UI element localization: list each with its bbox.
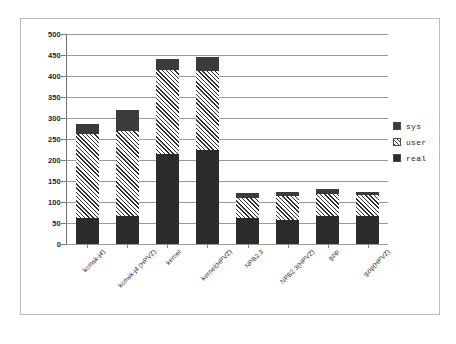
bar-slot [107,34,147,244]
legend-item-real[interactable]: real [393,151,455,165]
y-tick-mark [61,55,66,56]
x-axis-labels: kcmsk-j4)kcmsk-j4 (HPVZ)kernelkernel(HPV… [67,244,389,314]
x-label-slot: kcmsk-j4) [67,244,107,314]
plot-area: 500450400350300250200150100500 [66,34,388,244]
bar-segment-real [196,150,219,244]
bar-segment-real [116,216,139,244]
bar-segment-real [276,220,299,244]
y-tick-label: 500 [48,30,61,39]
y-tick-mark [61,223,66,224]
stacked-bar[interactable] [356,192,379,244]
bar-segment-sys [156,59,179,70]
y-tick-mark [61,181,66,182]
y-tick-label: 300 [48,114,61,123]
bar-slot [147,34,187,244]
y-tick-label: 200 [48,156,61,165]
legend-item-sys[interactable]: sys [393,119,455,133]
legend-label: sys [406,122,421,131]
bars-group [67,34,388,244]
x-axis-label: kernel [164,248,182,266]
bar-segment-real [156,154,179,244]
y-tick-mark [61,34,66,35]
y-tick-mark [61,139,66,140]
bar-slot [348,34,388,244]
bar-slot [187,34,227,244]
chart-figure: 500450400350300250200150100500 kcmsk-j4)… [20,18,440,315]
y-tick-label: 450 [48,51,61,60]
stacked-bar[interactable] [76,124,99,244]
y-tick-label: 150 [48,177,61,186]
user-swatch-icon [393,138,401,146]
y-tick-mark [61,97,66,98]
bar-segment-user [316,194,339,217]
bar-segment-user [356,195,379,216]
bar-slot [308,34,348,244]
sys-swatch-icon [393,122,401,130]
real-swatch-icon [393,154,401,162]
x-label-slot: NPB2.3 [228,244,268,314]
y-tick-label: 250 [48,135,61,144]
chart-legend: sysuserreal [393,119,455,167]
x-axis-label: kcmsk-j4) [81,248,106,273]
bar-segment-sys [76,124,99,134]
stacked-bar[interactable] [276,192,299,244]
bar-slot [228,34,268,244]
x-axis-label: NPB2.3 [243,248,264,269]
bar-segment-real [76,218,99,244]
stacked-bar[interactable] [316,189,339,244]
stacked-bar[interactable] [236,193,259,244]
bar-segment-user [76,134,99,218]
y-tick-mark [61,76,66,77]
y-tick-mark [61,244,66,245]
bar-segment-sys [196,57,219,71]
legend-label: user [406,138,426,147]
y-tick-label: 50 [52,219,61,228]
bar-segment-user [156,70,179,154]
stacked-bar[interactable] [196,57,219,244]
x-label-slot: kernel(HPVZ) [188,244,228,314]
legend-label: real [406,154,426,163]
x-label-slot: NPB2.3(HPVZ) [268,244,308,314]
bar-slot [268,34,308,244]
bar-slot [67,34,107,244]
bar-segment-real [356,216,379,244]
bar-segment-user [196,71,219,150]
y-tick-mark [61,202,66,203]
y-tick-label: 100 [48,198,61,207]
x-label-slot: kcmsk-j4 (HPVZ) [107,244,147,314]
y-tick-label: 0 [57,240,61,249]
x-label-slot: kernel [148,244,188,314]
bar-segment-user [116,131,139,216]
bar-segment-user [236,198,259,219]
bar-segment-sys [116,110,139,131]
y-tick-mark [61,160,66,161]
x-axis-label: gzip(HPVZ) [362,248,391,277]
x-axis-label: gzip [326,248,340,262]
x-label-slot: gzip [309,244,349,314]
bar-segment-real [236,218,259,244]
y-tick-label: 400 [48,72,61,81]
bar-segment-user [276,196,299,220]
stacked-bar[interactable] [156,59,179,244]
x-label-slot: gzip(HPVZ) [349,244,389,314]
y-tick-mark [61,118,66,119]
stacked-bar[interactable] [116,110,139,244]
legend-item-user[interactable]: user [393,135,455,149]
y-tick-label: 350 [48,93,61,102]
bar-segment-real [316,216,339,244]
